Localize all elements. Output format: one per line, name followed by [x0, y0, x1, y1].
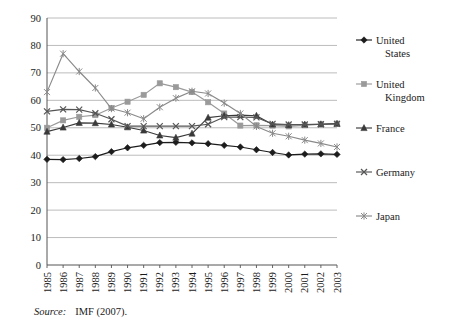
data-point-marker — [125, 99, 130, 104]
x-axis-tick-label: 1992 — [154, 272, 165, 293]
data-point-marker — [205, 140, 211, 146]
y-axis-tick-label: 90 — [31, 13, 42, 24]
y-axis-tick-label: 80 — [31, 40, 42, 51]
x-axis-tick-label: 1990 — [122, 272, 133, 293]
legend-item-label: UnitedStates — [376, 35, 410, 59]
legend-item-united-states[interactable]: UnitedStates — [356, 35, 410, 59]
data-point-marker — [334, 151, 340, 157]
x-axis-tick-label: 1985 — [42, 272, 53, 293]
data-point-marker — [76, 68, 82, 75]
y-axis-tick-label: 70 — [31, 67, 42, 78]
data-point-marker — [173, 95, 179, 102]
data-point-marker — [77, 114, 82, 119]
x-axis-tick-label: 1991 — [138, 272, 149, 293]
x-axis-tick-label: 1986 — [58, 272, 69, 293]
data-point-marker — [60, 156, 66, 162]
y-axis-tick-label: 30 — [31, 177, 42, 188]
y-axis-tick-label: 20 — [31, 205, 42, 216]
data-point-marker — [44, 156, 50, 162]
data-point-marker — [206, 100, 211, 105]
data-point-marker — [361, 81, 366, 86]
data-point-marker — [92, 153, 98, 159]
data-point-marker — [76, 155, 82, 161]
y-axis-tick-label: 10 — [31, 232, 42, 243]
line-chart: 0102030405060708090198519861987198819891… — [0, 0, 450, 300]
data-point-marker — [157, 104, 163, 111]
x-axis-tick-label: 2002 — [315, 272, 326, 293]
source-text: IMF (2007). — [75, 306, 127, 317]
x-axis-tick-label: 1998 — [251, 272, 262, 293]
x-axis-tick-label: 2001 — [299, 272, 310, 293]
data-point-marker — [141, 92, 146, 97]
x-axis-tick-label: 1994 — [187, 271, 198, 293]
chart-series-united-states — [44, 139, 340, 163]
data-point-marker — [60, 50, 66, 57]
legend-item-label: France — [376, 123, 405, 134]
x-axis-tick-label: 1995 — [203, 272, 214, 293]
y-axis-tick-label: 0 — [36, 260, 41, 271]
data-point-marker — [140, 142, 146, 148]
legend-item-germany[interactable]: Germany — [356, 167, 416, 178]
y-axis-tick-label: 40 — [31, 150, 42, 161]
data-point-marker — [157, 81, 162, 86]
data-point-marker — [157, 139, 163, 145]
figure-source-caption: Source:IMF (2007). — [34, 306, 127, 317]
chart-legend: UnitedStatesUnitedKingdomFranceGermanyJa… — [356, 35, 425, 222]
x-axis-tick-label: 1988 — [90, 272, 101, 293]
data-point-marker — [361, 37, 367, 43]
x-axis-tick-label: 1987 — [74, 272, 85, 293]
data-point-marker — [302, 151, 308, 157]
data-point-marker — [92, 84, 98, 91]
data-point-marker — [285, 152, 291, 158]
y-axis-tick-label: 50 — [31, 122, 42, 133]
x-axis-tick-label: 1999 — [267, 272, 278, 293]
data-point-marker — [221, 99, 227, 106]
data-point-marker — [141, 115, 147, 122]
data-point-marker — [124, 145, 130, 151]
data-point-marker — [108, 148, 114, 154]
x-axis-tick-label: 2003 — [332, 272, 343, 293]
legend-item-label: Germany — [376, 167, 416, 178]
data-point-marker — [253, 147, 259, 153]
x-axis-tick-label: 1997 — [235, 272, 246, 293]
data-point-marker — [173, 85, 178, 90]
x-axis: 1985198619871988198919901991199219931994… — [42, 265, 343, 293]
source-label: Source: — [34, 306, 66, 317]
data-point-marker — [221, 142, 227, 148]
legend-item-france[interactable]: France — [356, 123, 405, 134]
data-point-marker — [238, 123, 243, 128]
legend-item-label: Japan — [376, 211, 401, 222]
data-point-marker — [318, 151, 324, 157]
data-point-marker — [44, 89, 50, 96]
x-axis-tick-label: 1993 — [170, 272, 181, 293]
data-point-marker — [237, 144, 243, 150]
y-gridlines: 0102030405060708090 — [31, 13, 338, 271]
legend-item-japan[interactable]: Japan — [356, 211, 401, 222]
legend-item-united-kingdom[interactable]: UnitedKingdom — [356, 79, 425, 103]
data-point-marker — [269, 149, 275, 155]
y-axis-tick-label: 60 — [31, 95, 42, 106]
data-point-marker — [61, 118, 66, 123]
x-axis-tick-label: 1996 — [219, 272, 230, 293]
figure-container: 0102030405060708090198519861987198819891… — [0, 0, 450, 336]
data-point-marker — [189, 140, 195, 146]
chart-plot-area: 0102030405060708090198519861987198819891… — [0, 0, 450, 300]
data-point-marker — [237, 110, 243, 117]
x-axis-tick-label: 2000 — [283, 272, 294, 293]
x-axis-tick-label: 1989 — [106, 272, 117, 293]
legend-item-label: UnitedKingdom — [376, 79, 425, 103]
